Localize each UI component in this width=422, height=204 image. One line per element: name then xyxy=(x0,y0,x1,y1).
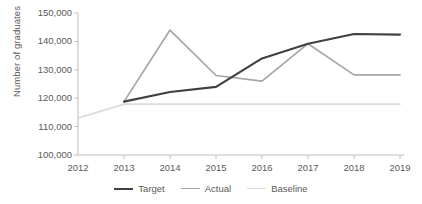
y-axis-tick-label-text: 150,000 xyxy=(20,7,72,18)
y-axis-tick-label-text: 120,000 xyxy=(20,92,72,103)
legend-item-actual[interactable]: Actual xyxy=(181,183,231,194)
legend-item-baseline[interactable]: Baseline xyxy=(247,183,307,194)
x-axis-tick-label: 2016 xyxy=(240,162,284,173)
x-axis-tick-label: 2018 xyxy=(332,162,376,173)
chart-legend: TargetActualBaseline xyxy=(0,183,422,194)
y-axis-tick-label-text: 110,000 xyxy=(20,121,72,132)
legend-swatch-icon xyxy=(114,188,133,190)
x-axis-tick-label: 2015 xyxy=(194,162,238,173)
series-line-baseline xyxy=(78,104,400,118)
legend-label: Actual xyxy=(205,183,231,194)
x-axis-tick-label: 2012 xyxy=(56,162,100,173)
x-axis-tick-label: 2014 xyxy=(148,162,192,173)
legend-label: Target xyxy=(138,183,164,194)
line-chart: Number of graduates 100,000110,000120,00… xyxy=(0,0,422,204)
series-line-actual xyxy=(124,30,400,102)
legend-item-target[interactable]: Target xyxy=(114,183,164,194)
x-axis-tick-label: 2019 xyxy=(378,162,422,173)
y-axis-tick-label-text: 130,000 xyxy=(20,64,72,75)
y-axis-tick-label-text: 100,000 xyxy=(20,149,72,160)
legend-swatch-icon xyxy=(247,188,266,189)
series-line-target xyxy=(124,34,400,102)
legend-label: Baseline xyxy=(271,183,307,194)
x-axis-tick-label: 2013 xyxy=(102,162,146,173)
x-axis-tick-label: 2017 xyxy=(286,162,330,173)
y-axis-tick-label-text: 140,000 xyxy=(20,35,72,46)
legend-swatch-icon xyxy=(181,188,200,189)
